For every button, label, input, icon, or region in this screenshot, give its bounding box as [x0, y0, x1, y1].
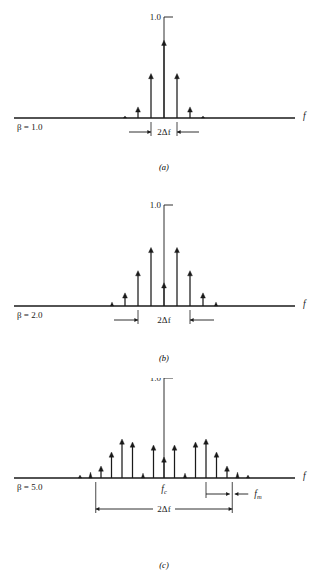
- spectral-line: [120, 439, 125, 478]
- spectral-tick: [78, 475, 81, 478]
- spectral-line: [136, 107, 141, 118]
- bandwidth-arrow-right: [190, 318, 214, 322]
- spectral-arrowhead: [225, 466, 230, 471]
- bandwidth-arrow-right: [175, 507, 232, 511]
- spectral-arrowhead: [162, 457, 167, 462]
- spectral-tick: [110, 302, 113, 306]
- panel-b-caption: (b): [0, 353, 328, 363]
- spectral-arrowhead: [151, 445, 156, 450]
- spectral-line: [172, 445, 177, 478]
- spectral-line: [162, 40, 167, 118]
- spectral-line: [149, 74, 154, 118]
- spectral-line: [225, 466, 230, 478]
- spectral-line: [141, 473, 144, 478]
- spectral-line: [99, 466, 104, 478]
- spectral-arrowhead: [123, 293, 128, 298]
- spectral-arrowhead: [193, 442, 198, 447]
- beta-label: β = 1.0: [17, 122, 43, 132]
- spectral-line: [188, 107, 193, 118]
- spectral-tick: [141, 473, 144, 478]
- spectral-arrowhead: [188, 271, 193, 276]
- panel-c-caption: (c): [0, 560, 328, 570]
- axis-label-f: f: [303, 471, 307, 481]
- spectral-arrowhead: [175, 247, 180, 252]
- spectral-arrowhead: [162, 40, 167, 45]
- fm-arrow-left: [206, 492, 230, 496]
- spectral-arrowhead: [149, 247, 154, 252]
- axis-label-f: f: [303, 111, 307, 121]
- spectral-arrowhead: [136, 107, 141, 112]
- spectral-arrowhead: [204, 439, 209, 444]
- spectral-arrowhead: [130, 442, 135, 447]
- bandwidth-label: 2Δf: [157, 127, 170, 137]
- arrow-head: [229, 507, 233, 511]
- panel-b: fβ = 2.01.02Δf (b): [0, 188, 328, 373]
- arrow-head: [226, 492, 230, 496]
- spectral-arrowhead: [172, 445, 177, 450]
- spectral-line: [175, 74, 180, 118]
- bandwidth-arrow-left: [129, 130, 151, 134]
- spectral-line: [201, 293, 206, 306]
- bandwidth-arrow-left: [114, 318, 138, 322]
- spectral-line: [89, 472, 92, 478]
- spectral-arrowhead: [149, 74, 154, 79]
- spectral-arrowhead: [120, 439, 125, 444]
- amplitude-label: 1.0: [150, 200, 162, 210]
- spectral-line: [123, 293, 128, 306]
- spectral-arrowhead: [188, 107, 193, 112]
- amplitude-label: 1.0: [150, 378, 162, 383]
- spectral-tick: [214, 302, 217, 306]
- amplitude-label: 1.0: [150, 12, 162, 22]
- spectral-line: [246, 475, 249, 478]
- spectral-line: [149, 247, 154, 306]
- spectral-line: [201, 116, 204, 118]
- arrow-head: [177, 130, 181, 134]
- spectral-line: [130, 442, 135, 478]
- spectrum-plot-a: fβ = 1.01.02Δf: [0, 0, 328, 180]
- spectral-arrowhead: [99, 466, 104, 471]
- spectral-line: [162, 283, 167, 306]
- fm-spectra-figure: fβ = 1.01.02Δf (a) fβ = 2.01.02Δf (b) fβ…: [0, 0, 328, 579]
- spectral-line: [175, 247, 180, 306]
- spectral-tick: [89, 472, 92, 478]
- arrow-head: [235, 492, 239, 496]
- spectral-line: [193, 442, 198, 478]
- fm-label: fm: [254, 489, 262, 500]
- spectral-tick: [236, 472, 239, 478]
- fm-arrow-right: [235, 492, 249, 496]
- beta-label: β = 2.0: [17, 310, 43, 320]
- spectral-line: [162, 457, 167, 478]
- spectral-line: [78, 475, 81, 478]
- spectral-line: [183, 473, 186, 478]
- arrow-head: [190, 318, 194, 322]
- arrow-head: [134, 318, 138, 322]
- panel-a: fβ = 1.01.02Δf (a): [0, 0, 328, 180]
- spectral-arrowhead: [214, 452, 219, 457]
- spectral-arrowhead: [109, 452, 114, 457]
- spectral-line: [110, 302, 113, 306]
- beta-label: β = 5.0: [17, 482, 43, 492]
- spectral-tick: [246, 475, 249, 478]
- spectral-line: [204, 439, 209, 478]
- spectral-arrowhead: [136, 271, 141, 276]
- axis-label-f: f: [303, 299, 307, 309]
- panel-a-caption: (a): [0, 162, 328, 172]
- bandwidth-label: 2Δf: [157, 315, 170, 325]
- spectral-arrowhead: [162, 283, 167, 288]
- spectral-line: [109, 452, 114, 478]
- spectral-line: [136, 271, 141, 306]
- spectral-line: [214, 302, 217, 306]
- spectral-arrowhead: [201, 293, 206, 298]
- bandwidth-arrow-left: [96, 507, 153, 511]
- spectral-line: [188, 271, 193, 306]
- carrier-label: fc: [161, 484, 167, 495]
- spectral-line: [123, 116, 126, 118]
- spectral-line: [236, 472, 239, 478]
- spectral-tick: [201, 116, 204, 118]
- bandwidth-label: 2Δf: [157, 504, 170, 514]
- spectral-tick: [183, 473, 186, 478]
- spectral-line: [151, 445, 156, 478]
- spectrum-plot-c: fβ = 5.01.0fc2Δffm: [0, 378, 328, 563]
- spectral-tick: [123, 116, 126, 118]
- spectral-arrowhead: [175, 74, 180, 79]
